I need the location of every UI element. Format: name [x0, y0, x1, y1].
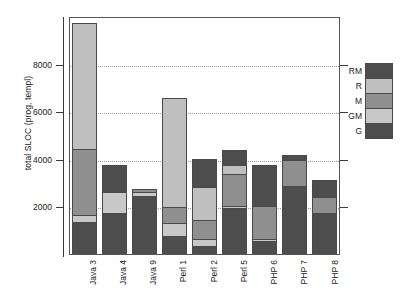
- bar-php-6[interactable]: [252, 165, 277, 254]
- bar-segment-rm: [223, 151, 246, 165]
- x-tick-label: PHP 7: [283, 258, 308, 304]
- bar-segment-m: [223, 175, 246, 207]
- bar-segment-g: [163, 237, 186, 254]
- bar-group: [70, 18, 339, 254]
- x-tick-label: Perl 1: [162, 258, 187, 304]
- bar-segment-m: [313, 198, 336, 214]
- y-tick-label: 4000: [18, 155, 52, 165]
- x-tick-label-text: PHP 7: [299, 260, 309, 284]
- bar-segment-gm: [163, 224, 186, 237]
- bar-perl-2[interactable]: [192, 159, 217, 254]
- x-tick-label-text: Java 3: [88, 260, 98, 285]
- legend-labels: RMRMGMG: [345, 63, 362, 139]
- legend-label-r: R: [345, 79, 362, 93]
- y-tick: [56, 112, 64, 113]
- y-tick-right: [339, 160, 348, 161]
- x-tick-label: PHP 6: [253, 258, 278, 304]
- x-tick-label-text: Perl 1: [178, 260, 188, 282]
- bar-segment-rm: [103, 166, 126, 193]
- bar-segment-gm: [103, 193, 126, 214]
- x-tick-label: PHP 8: [313, 258, 338, 304]
- bar-java-3[interactable]: [72, 23, 97, 254]
- x-axis-tick-labels: Java 3Java 4Java 9Perl 1Perl 2Perl 5PHP …: [69, 258, 340, 304]
- bar-php-7[interactable]: [282, 155, 307, 254]
- bar-segment-g: [223, 209, 246, 254]
- y-tick: [56, 65, 64, 66]
- bar-segment-m: [163, 208, 186, 225]
- bar-segment-r: [193, 188, 216, 221]
- bar-segment-g: [193, 247, 216, 254]
- bar-segment-g: [103, 214, 126, 254]
- x-tick-label: Java 3: [71, 258, 96, 304]
- bar-segment-gm: [73, 216, 96, 223]
- legend-swatch-r: [366, 79, 392, 94]
- bar-segment-m: [283, 161, 306, 187]
- x-tick-label: Java 9: [132, 258, 157, 304]
- bar-segment-g: [313, 214, 336, 254]
- y-tick-label: 6000: [18, 107, 52, 117]
- y-axis-spine: [63, 17, 64, 257]
- bar-java-9[interactable]: [132, 189, 157, 254]
- chart-figure: total SLOC (prog, templ) 200040006000800…: [0, 0, 410, 304]
- x-tick-label-text: Perl 2: [209, 260, 219, 282]
- legend-swatches: [365, 63, 393, 139]
- y-tick-right: [339, 207, 348, 208]
- legend-swatch-m: [366, 94, 392, 109]
- bar-segment-r: [163, 99, 186, 208]
- bar-segment-g: [73, 223, 96, 254]
- legend-swatch-rm: [366, 64, 392, 79]
- x-tick-label: Perl 2: [192, 258, 217, 304]
- x-tick-label-text: Java 4: [118, 260, 128, 285]
- bar-segment-g: [283, 187, 306, 254]
- legend-label-m: M: [345, 94, 362, 108]
- legend-label-gm: GM: [345, 109, 362, 123]
- bar-segment-m: [73, 150, 96, 216]
- x-tick-label-text: PHP 8: [330, 260, 340, 284]
- bar-segment-r: [73, 24, 96, 150]
- y-tick-label: 8000: [18, 60, 52, 70]
- x-tick-label-text: Java 9: [148, 260, 158, 285]
- bar-perl-1[interactable]: [162, 98, 187, 254]
- legend-swatch-g: [366, 124, 392, 138]
- x-tick-label-text: PHP 6: [269, 260, 279, 284]
- bar-segment-rm: [253, 166, 276, 207]
- bar-segment-g: [253, 242, 276, 254]
- bar-segment-r: [223, 166, 246, 175]
- bar-segment-rm: [313, 181, 336, 197]
- bar-segment-g: [133, 197, 156, 254]
- bar-php-8[interactable]: [312, 180, 337, 254]
- y-tick-label: 2000: [18, 202, 52, 212]
- plot-area: [69, 17, 340, 255]
- bar-java-4[interactable]: [102, 165, 127, 254]
- bar-segment-m: [253, 207, 276, 240]
- legend-label-g: G: [345, 124, 362, 138]
- legend: RMRMGMG: [345, 63, 393, 139]
- y-tick: [56, 160, 64, 161]
- x-tick-label-text: Perl 5: [239, 260, 249, 282]
- bar-segment-m: [193, 221, 216, 240]
- bar-segment-rm: [193, 160, 216, 188]
- y-tick: [56, 207, 64, 208]
- x-tick-label: Java 4: [101, 258, 126, 304]
- bar-perl-5[interactable]: [222, 150, 247, 254]
- legend-label-rm: RM: [345, 64, 362, 78]
- legend-swatch-gm: [366, 109, 392, 124]
- bar-segment-gm: [193, 240, 216, 247]
- x-tick-label: Perl 5: [222, 258, 247, 304]
